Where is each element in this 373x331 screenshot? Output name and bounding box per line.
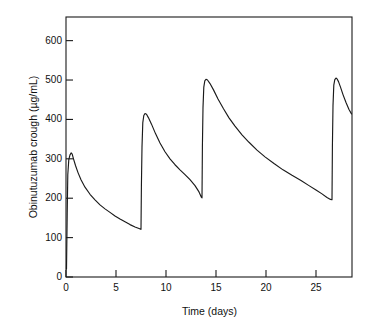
- x-tick-label: 20: [251, 283, 281, 293]
- plot-frame: [66, 17, 352, 277]
- x-tick-label: 0: [51, 283, 81, 293]
- x-axis-tick-labels: 0510152025: [0, 283, 373, 297]
- x-tick-label: 5: [101, 283, 131, 293]
- y-tick-label: 0: [28, 272, 62, 282]
- x-axis-title: Time (days): [66, 305, 353, 317]
- pharmacokinetics-chart: 0100200300400500600 0510152025 Obinutuzu…: [0, 0, 373, 331]
- x-tick-label: 10: [151, 283, 181, 293]
- x-tick-label: 15: [201, 283, 231, 293]
- concentration-curve: [67, 78, 352, 269]
- x-tick-label: 25: [301, 283, 331, 293]
- y-axis-title: Obinutuzumab crough (µg/mL): [27, 27, 39, 267]
- x-axis-tick-marks: [66, 270, 316, 277]
